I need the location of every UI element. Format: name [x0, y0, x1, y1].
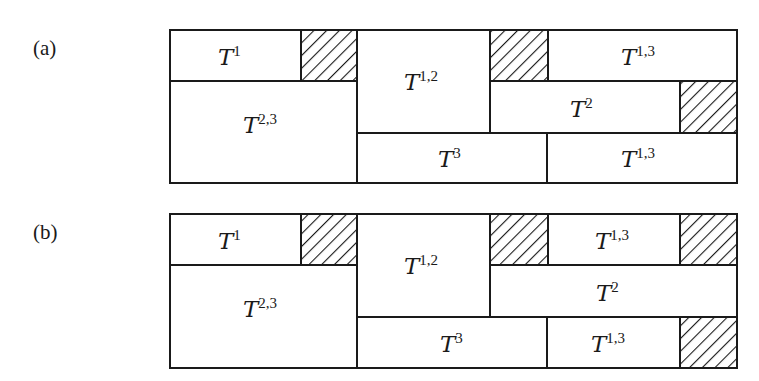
idle-hatched-block	[680, 317, 737, 368]
schedule-diagram: (a) (b) T1 T2,3 T1,2 T1,3 T2 T3 T1,3 T1	[0, 0, 759, 381]
panel-label-b: (b)	[33, 220, 58, 244]
panel-label-a: (a)	[33, 36, 56, 60]
panel-b: T1 T2,3 T1,2 T1,3 T2 T3 T1,3	[170, 214, 737, 368]
idle-hatched-block	[680, 214, 737, 265]
idle-hatched-block	[301, 214, 357, 265]
panel-a: T1 T2,3 T1,2 T1,3 T2 T3 T1,3	[170, 30, 737, 183]
idle-hatched-block	[490, 214, 548, 265]
block-t2-3	[170, 81, 357, 183]
idle-hatched-block	[680, 81, 737, 133]
idle-hatched-block	[301, 30, 357, 81]
block-t2-3	[170, 265, 357, 368]
idle-hatched-block	[490, 30, 548, 81]
